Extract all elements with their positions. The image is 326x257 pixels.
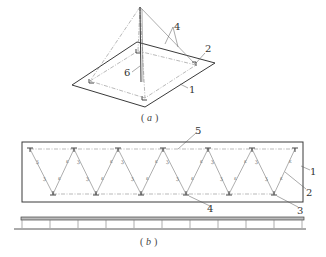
label-a-plate: 1 (189, 84, 195, 95)
svg-text:ʒ: ʒ (176, 175, 179, 182)
svg-text:ɛ: ɛ (155, 158, 158, 164)
svg-text:ɛ: ɛ (110, 158, 113, 164)
bottom-nodes (50, 191, 277, 195)
svg-text:ɛ: ɛ (66, 158, 69, 164)
svg-text:ɛ: ɛ (244, 158, 247, 164)
caption-b-open: ( (140, 236, 144, 248)
caption-a: a (147, 112, 152, 123)
svg-text:ʒ: ʒ (255, 158, 258, 165)
caption-b-close: ) (154, 236, 157, 248)
caption-a-close: ) (155, 112, 158, 124)
label-b-top-chord: 5 (195, 125, 201, 136)
label-a-mast: 6 (124, 67, 130, 78)
label-b-frame: 1 (310, 166, 316, 177)
elevation-posts (22, 220, 302, 228)
svg-text:ʒ: ʒ (131, 175, 134, 182)
panel-a-pyramid-view: 4 2 6 1 ( a ) (72, 7, 215, 124)
bolt-marks: ʒʒ ɛɛ ʒʒ ɛɛ ʒʒ ɛɛ ʒʒ ɛɛ ʒʒ ɛɛ ʒʒ ɛɛ (36, 158, 292, 182)
elevation-beam (21, 217, 304, 220)
svg-text:ʒ: ʒ (166, 158, 169, 165)
svg-text:ʒ: ʒ (36, 158, 39, 165)
label-a-corner-anchor: 2 (205, 43, 211, 54)
caption-a-open: ( (141, 112, 145, 124)
svg-text:ɛ: ɛ (234, 175, 237, 181)
panel-b-plan-view: ʒʒ ɛɛ ʒʒ ɛɛ ʒʒ ɛɛ ʒʒ ɛɛ ʒʒ ɛɛ ʒʒ ɛɛ (14, 125, 316, 248)
central-mast (140, 7, 143, 82)
outer-frame (22, 142, 303, 202)
label-b-bottom-node: 3 (297, 205, 303, 216)
label-b-diagonal: 2 (306, 187, 312, 198)
svg-text:ʒ: ʒ (86, 175, 89, 182)
svg-text:ʒ: ʒ (121, 158, 124, 165)
technical-figure: 4 2 6 1 ( a ) ʒʒ ɛɛ ʒʒ ɛɛ ʒʒ ɛɛ ʒʒ ɛɛ ʒʒ (0, 0, 326, 257)
svg-text:ɛ: ɛ (200, 158, 203, 164)
label-b-web-member: 4 (207, 203, 213, 214)
svg-text:ɛ: ɛ (191, 175, 194, 181)
svg-text:ʒ: ʒ (265, 175, 268, 182)
diagonal-members (30, 149, 295, 194)
svg-text:ɛ: ɛ (146, 175, 149, 181)
svg-text:ɛ: ɛ (289, 158, 292, 164)
caption-b: b (146, 236, 151, 247)
svg-text:ʒ: ʒ (77, 158, 80, 165)
figure-canvas: 4 2 6 1 ( a ) ʒʒ ɛɛ ʒʒ ɛɛ ʒʒ ɛɛ ʒʒ ɛɛ ʒʒ (0, 0, 326, 257)
svg-text:ɛ: ɛ (280, 175, 283, 181)
svg-text:ɛ: ɛ (101, 175, 104, 181)
label-a-guy-wires: 4 (174, 21, 180, 32)
elevation-view (14, 217, 306, 229)
svg-text:ʒ: ʒ (220, 175, 223, 182)
svg-text:ɛ: ɛ (58, 175, 61, 181)
svg-text:ʒ: ʒ (43, 175, 46, 182)
svg-text:ʒ: ʒ (211, 158, 214, 165)
